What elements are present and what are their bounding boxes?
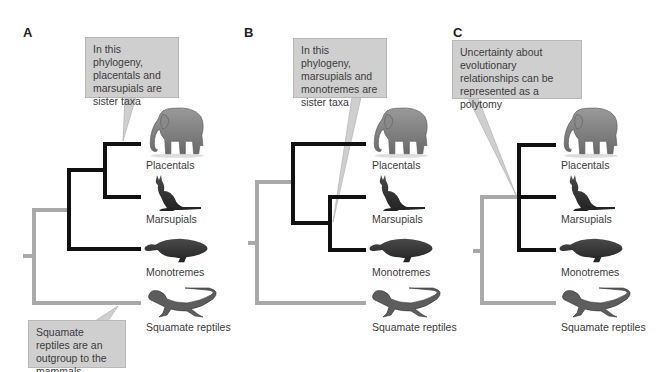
callout-polytomy: Uncertainty about evolutionary relations…	[452, 40, 582, 99]
kangaroo-icon	[374, 173, 428, 213]
callout-pointer	[333, 97, 361, 222]
lizard-icon	[558, 287, 634, 319]
taxon-label-squamates: Squamate reptiles	[146, 321, 231, 333]
callout-sister-taxa-b: In this phylogeny, marsupials and monotr…	[293, 38, 387, 98]
elephant-icon	[144, 104, 206, 158]
platypus-icon	[143, 236, 211, 264]
taxon-label-monotremes: Monotremes	[146, 266, 204, 278]
platypus-icon	[368, 236, 436, 264]
elephant-icon	[368, 104, 430, 158]
callout-pointer	[468, 98, 516, 195]
outgroup-callout-pointer	[95, 306, 118, 321]
elephant-icon	[558, 104, 620, 158]
kangaroo-icon	[150, 173, 204, 213]
panel-b: B In this phylogeny, marsupials and mono…	[230, 0, 450, 372]
outgroup-branches	[23, 208, 141, 305]
ingroup-branches-polytomy	[517, 143, 556, 252]
taxon-label-placentals: Placentals	[146, 159, 194, 171]
kangaroo-icon	[564, 173, 618, 213]
taxon-label-placentals: Placentals	[561, 159, 609, 171]
ingroup-branches	[291, 142, 366, 252]
panel-c: C Uncertainty about evolutionary relatio…	[440, 0, 666, 372]
taxon-label-marsupials: Marsupials	[561, 213, 612, 225]
taxon-label-monotremes: Monotremes	[561, 266, 619, 278]
taxon-label-marsupials: Marsupials	[372, 213, 423, 225]
taxon-label-marsupials: Marsupials	[146, 213, 197, 225]
callout-outgroup: Squamate reptiles are an outgroup to the…	[28, 320, 126, 368]
panel-a: A In this phylogeny, placentals and mars…	[0, 0, 230, 372]
lizard-icon	[368, 287, 444, 319]
taxon-label-placentals: Placentals	[372, 159, 420, 171]
callout-sister-taxa-a: In this phylogeny, placentals and marsup…	[85, 37, 179, 98]
taxon-label-squamates: Squamate reptiles	[561, 321, 646, 333]
ingroup-branches	[67, 142, 141, 251]
taxon-label-monotremes: Monotremes	[372, 266, 430, 278]
lizard-icon	[144, 287, 220, 319]
platypus-icon	[558, 236, 626, 264]
